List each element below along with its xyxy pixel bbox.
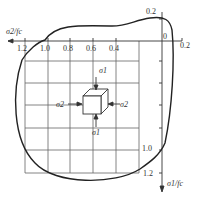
strength-envelope-diagram: 1.2 1.0 0.8 0.6 0.4 0 0.2 0.2 1.0 1.2 σ2… xyxy=(0,0,197,197)
sigma1-top-label: σ1 xyxy=(99,66,107,75)
x-tick-0: 0 xyxy=(163,32,167,41)
x-tick-1.0: 1.0 xyxy=(40,44,50,53)
stress-element-cube xyxy=(83,89,108,114)
x-tick-0.6: 0.6 xyxy=(86,44,96,53)
x-tick-0.2: 0.2 xyxy=(180,41,190,50)
y-tick-0.2: 0.2 xyxy=(146,7,156,16)
y-tick-1.0: 1.0 xyxy=(142,144,152,153)
x-axis xyxy=(8,38,182,43)
x-tick-1.2: 1.2 xyxy=(17,44,27,53)
y-tick-1.2: 1.2 xyxy=(143,169,153,178)
y-axis-label: σ1/fc xyxy=(167,179,183,188)
sigma2-left-label: σ2 xyxy=(56,100,64,109)
x-tick-0.4: 0.4 xyxy=(109,44,119,53)
x-axis-label: σ2/fc xyxy=(6,27,22,36)
sigma1-bottom-label: σ1 xyxy=(92,128,100,137)
x-tick-0.8: 0.8 xyxy=(63,44,73,53)
sigma2-right-label: σ2 xyxy=(120,100,128,109)
